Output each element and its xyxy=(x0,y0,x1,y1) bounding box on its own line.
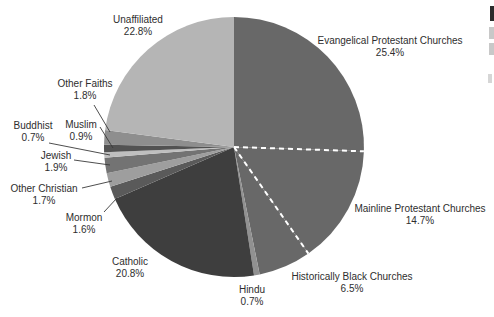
cut-off-text-fragment xyxy=(489,43,494,55)
cut-off-text-fragment xyxy=(489,27,494,39)
pie-slice-unaffiliated xyxy=(105,17,234,147)
cut-off-text-fragment xyxy=(490,6,494,21)
cut-off-text-fragment xyxy=(488,74,492,83)
leader-line-mormon xyxy=(104,198,117,212)
leader-line-buddhist xyxy=(49,143,110,155)
pie-svg xyxy=(0,0,494,317)
leader-line-other-christian xyxy=(82,181,112,188)
pie-chart-figure: Evangelical Protestant Churches25.4%Main… xyxy=(0,0,494,317)
pie-slice-evangelical-protestant-churches xyxy=(234,17,364,151)
leader-line-jewish xyxy=(74,160,110,165)
